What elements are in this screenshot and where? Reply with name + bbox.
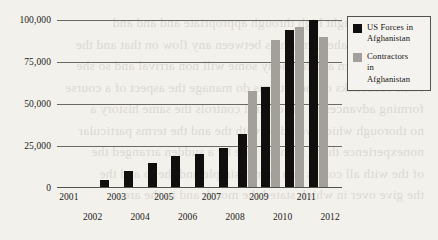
- legend-label-contractors: ContractorsinAfghanistan: [367, 51, 410, 85]
- x-axis-baseline: [57, 187, 342, 188]
- y-axis-tick-label: 100,000: [19, 15, 51, 25]
- bars-group: [57, 20, 342, 188]
- plot-area: 025,00050,00075,000100,000: [57, 20, 342, 188]
- x-axis-tick-labels: 2001200220032004200520062007200820092010…: [57, 190, 342, 236]
- legend-label-us-forces: US Forces inAfghanistan: [367, 22, 413, 45]
- x-axis-tick-label-2009: 2009: [249, 192, 268, 202]
- x-axis-tick-label-2012: 2012: [320, 212, 339, 222]
- x-axis-tick-label-2002: 2002: [83, 212, 102, 222]
- y-axis-tick-label: 0: [46, 183, 51, 193]
- bar-2009-us-forces: [261, 87, 270, 188]
- legend-item-us-forces: US Forces inAfghanistan: [353, 22, 425, 45]
- y-axis-tick-label: 50,000: [24, 99, 51, 109]
- bar-group-2009: [247, 20, 271, 188]
- bar-2010-us-forces: [285, 30, 294, 188]
- bar-group-2011: [295, 20, 319, 188]
- bar-group-2004: [128, 20, 152, 188]
- bar-group-2012: [318, 20, 342, 188]
- bar-group-2007: [200, 20, 224, 188]
- bar-group-2003: [105, 20, 129, 188]
- x-axis-tick-label-2005: 2005: [154, 192, 173, 202]
- legend-item-contractors: ContractorsinAfghanistan: [353, 51, 425, 85]
- black-square-swatch-icon: [353, 24, 362, 33]
- x-axis-tick-label-2011: 2011: [297, 192, 316, 202]
- plot-wrapper: 025,00050,00075,000100,000 2001200220032…: [0, 0, 438, 240]
- x-axis-tick-label-2007: 2007: [202, 192, 221, 202]
- y-axis-tick-label: 75,000: [24, 57, 51, 67]
- x-axis-tick-label-2001: 2001: [59, 192, 78, 202]
- x-axis-tick-label-2010: 2010: [273, 212, 292, 222]
- bar-2011-us-forces: [309, 20, 318, 188]
- y-axis-tick-label: 25,000: [24, 141, 51, 151]
- bar-group-2008: [223, 20, 247, 188]
- x-axis-tick-label-2006: 2006: [178, 212, 197, 222]
- chart-legend: US Forces inAfghanistan ContractorsinAfg…: [347, 16, 431, 91]
- bar-group-2001: [57, 20, 81, 188]
- bar-group-2010: [271, 20, 295, 188]
- bar-group-2006: [176, 20, 200, 188]
- x-axis-tick-label-2003: 2003: [107, 192, 126, 202]
- bar-group-2005: [152, 20, 176, 188]
- bar-group-2002: [81, 20, 105, 188]
- bar-chart-figure: 025,00050,00075,000100,000 2001200220032…: [0, 0, 438, 240]
- gray-square-swatch-icon: [353, 53, 362, 62]
- x-axis-tick-label-2008: 2008: [225, 212, 244, 222]
- bar-2008-us-forces: [238, 134, 247, 188]
- x-axis-tick-label-2004: 2004: [130, 212, 149, 222]
